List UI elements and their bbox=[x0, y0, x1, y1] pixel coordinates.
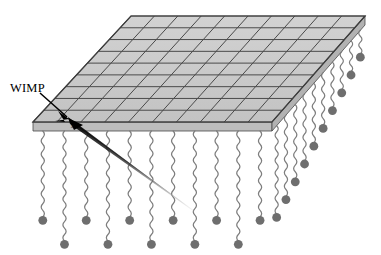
sensor-string-front bbox=[38, 131, 47, 225]
sensor-wire bbox=[172, 131, 175, 217]
sensor-mass-ball bbox=[104, 240, 113, 249]
sensor-mass-ball bbox=[328, 106, 337, 115]
sensor-wire bbox=[63, 131, 66, 241]
sensor-mass-ball bbox=[319, 124, 328, 133]
sensor-mass-ball bbox=[82, 216, 91, 225]
sensor-mass-ball bbox=[60, 240, 69, 249]
sensor-string-front bbox=[212, 131, 221, 225]
sensor-string-right bbox=[282, 115, 291, 204]
sensor-wire bbox=[258, 131, 261, 217]
detector-top-plane bbox=[33, 16, 365, 122]
sensor-string-front bbox=[82, 131, 91, 225]
sensor-string-right bbox=[291, 105, 300, 187]
sensor-mass-ball bbox=[356, 53, 365, 62]
sensor-string-right bbox=[300, 94, 309, 169]
sensor-mass-ball bbox=[256, 216, 265, 225]
sensor-mass-ball bbox=[300, 160, 309, 169]
recoil-label: x bbox=[70, 123, 74, 129]
sensor-wire bbox=[150, 131, 153, 241]
sensor-wire bbox=[322, 73, 325, 125]
detector-diagram: WIMP x bbox=[0, 0, 381, 255]
sensor-string-right bbox=[347, 41, 356, 80]
sensor-wire bbox=[340, 52, 343, 90]
sensor-mass-ball bbox=[282, 195, 291, 204]
sensor-mass-ball bbox=[212, 216, 221, 225]
sensor-string-front bbox=[190, 131, 199, 249]
sensor-wire bbox=[312, 83, 315, 143]
sensor-string-front bbox=[169, 131, 178, 225]
sensor-string-front bbox=[125, 131, 134, 225]
sensor-wire bbox=[331, 62, 334, 107]
sensor-mass-ball bbox=[347, 71, 356, 80]
sensor-string-right bbox=[319, 73, 328, 133]
sensor-mass-ball bbox=[291, 177, 300, 186]
figure-root: WIMP x bbox=[0, 0, 381, 255]
sensor-string-front bbox=[60, 131, 69, 249]
sensor-string-front bbox=[256, 131, 265, 225]
sensor-wire bbox=[359, 30, 362, 54]
sensor-mass-ball bbox=[272, 213, 281, 222]
sensor-string-front bbox=[234, 131, 243, 249]
sensor-string-right bbox=[328, 62, 337, 115]
sensor-mass-ball bbox=[190, 240, 199, 249]
sensor-wire bbox=[237, 131, 240, 241]
sensor-mass-ball bbox=[337, 88, 346, 97]
sensor-wire bbox=[41, 131, 44, 217]
sensor-string-right bbox=[337, 52, 346, 98]
sensor-wire bbox=[128, 131, 131, 217]
sensor-wire bbox=[303, 94, 306, 161]
sensor-string-right bbox=[309, 83, 318, 150]
sensor-wire bbox=[284, 115, 287, 196]
sensor-mass-ball bbox=[147, 240, 156, 249]
sensor-mass-ball bbox=[234, 240, 243, 249]
sensor-string-front bbox=[147, 131, 156, 249]
sensor-mass-ball bbox=[309, 142, 318, 151]
sensor-wire bbox=[193, 131, 196, 241]
sensor-mass-ball bbox=[38, 216, 47, 225]
sensor-wire bbox=[349, 41, 352, 72]
sensor-wire bbox=[275, 126, 278, 214]
wimp-label: WIMP bbox=[10, 81, 45, 95]
slab-front-face bbox=[33, 122, 272, 131]
sensor-mass-ball bbox=[169, 216, 178, 225]
sensor-string-right bbox=[356, 30, 365, 61]
sensor-wire bbox=[85, 131, 88, 217]
sensor-string-right bbox=[272, 126, 281, 222]
sensor-wire bbox=[294, 105, 297, 179]
sensor-mass-ball bbox=[125, 216, 134, 225]
sensor-wire bbox=[215, 131, 218, 217]
